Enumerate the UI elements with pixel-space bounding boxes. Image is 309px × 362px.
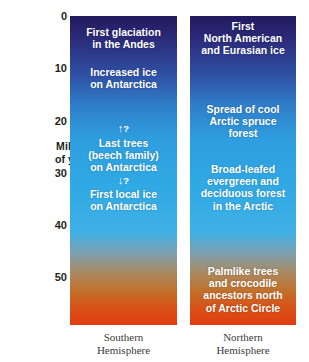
caption-northern-hemisphere: Northern Hemisphere	[190, 331, 296, 357]
northern-hemisphere-column: First North American and Eurasian ice Sp…	[190, 16, 296, 325]
climate-timeline-figure: Millions of years ago 0 10 20 30 40 50 F…	[0, 0, 309, 362]
south-event-1: Increased ice on Antarctica	[70, 66, 177, 90]
north-event-3: Palmlike trees and crocodile ancestors n…	[190, 265, 296, 314]
question-mark-1: ?	[123, 175, 129, 186]
southern-hemisphere-column: First glaciation in the Andes Increased …	[70, 16, 177, 325]
south-up-arrow-annotation: ↑?	[70, 123, 177, 134]
axis-tick-label-0: 0	[41, 11, 67, 22]
axis-tick-label-50: 50	[41, 272, 67, 283]
north-event-2: Broad-leafed evergreen and deciduous for…	[190, 163, 296, 212]
north-event-1: Spread of cool Arctic spruce forest	[190, 103, 296, 140]
axis-tick-label-20: 20	[41, 116, 67, 127]
south-event-0: First glaciation in the Andes	[70, 26, 177, 50]
north-event-0: First North American and Eurasian ice	[190, 20, 296, 57]
axis-tick-label-30: 30	[41, 168, 67, 179]
axis-tick-label-40: 40	[41, 220, 67, 231]
south-event-3: First local ice on Antarctica	[70, 188, 177, 212]
south-down-arrow-annotation: ↓?	[70, 175, 177, 186]
question-mark-0: ?	[123, 123, 129, 134]
south-event-2: Last trees (beech family) on Antarctica	[70, 137, 177, 174]
caption-southern-hemisphere: Southern Hemisphere	[70, 331, 177, 357]
axis-tick-label-10: 10	[41, 63, 67, 74]
